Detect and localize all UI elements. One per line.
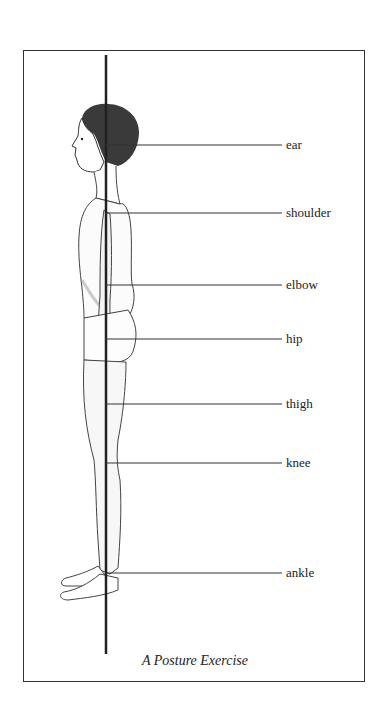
label-ankle: ankle [286,566,314,579]
hip-area [84,310,136,362]
label-shoulder: shoulder [286,206,331,219]
label-knee: knee [286,456,311,469]
human-figure-illustration [0,0,386,726]
label-hip: hip [286,332,303,345]
label-elbow: elbow [286,278,318,291]
label-thigh: thigh [286,397,313,410]
legs [83,360,126,574]
diagram-caption: A Posture Exercise [0,653,386,669]
leader-lines [106,145,282,573]
label-ear: ear [286,138,302,151]
